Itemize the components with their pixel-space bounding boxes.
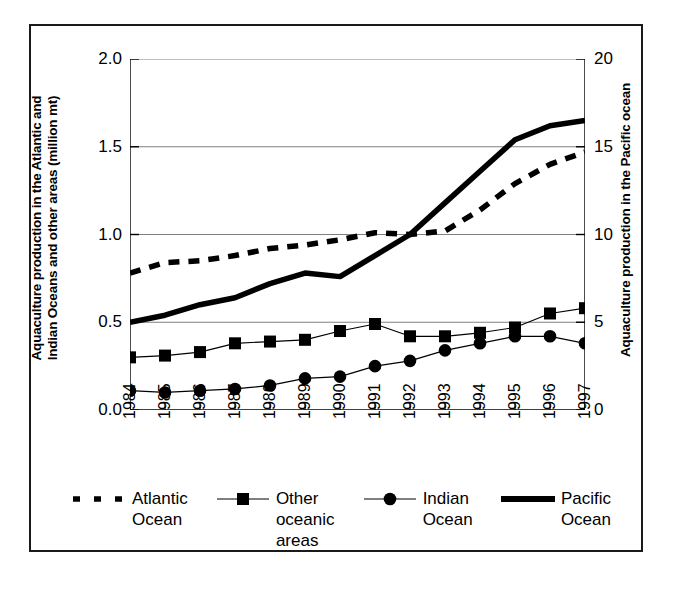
x-axis-tick-label: 1987 [226,383,244,419]
x-axis-tick-label: 1994 [471,383,489,419]
y-axis-right-ticks [576,59,585,410]
legend-entry: Atlantic Ocean [71,488,188,530]
plot-area: 0.00.51.01.52.0 05101520 198419851986198… [130,59,585,410]
x-axis-tick-label: 1989 [296,383,314,419]
x-axis-tick-label: 1995 [506,383,524,419]
solid-line-icon [500,489,556,509]
legend-label: Other oceanic areas [276,488,335,551]
x-axis-tick-label: 1988 [261,383,279,419]
y-axis-left-tick-label: 0.5 [98,312,122,332]
y-axis-right-tick-label: 10 [594,225,613,245]
legend-label: Indian Ocean [423,488,473,530]
x-axis-tick-label: 1992 [401,383,419,419]
square-marker-line-icon [215,489,271,509]
x-axis-tick-label: 1993 [436,383,454,419]
x-axis-tick-label: 1996 [541,383,559,419]
data-series-layer [130,120,585,398]
x-axis-tick-label: 1991 [366,383,384,419]
series-atlantic-ocean [130,152,585,273]
x-axis-tick-label: 1990 [331,383,349,419]
chart-legend: Atlantic OceanOther oceanic areasIndian … [71,488,611,551]
y-axis-right-tick-label: 20 [594,49,613,69]
y-axis-right-title: Aquaculture production in the Pacific oc… [618,30,634,410]
y-axis-left-tick-label: 1.0 [98,225,122,245]
figure-frame: Aquaculture production in the Atlantic a… [29,24,643,552]
series-pacific-ocean [130,120,585,322]
y-axis-right-tick-label: 15 [594,137,613,157]
legend-entry: Indian Ocean [362,488,473,530]
y-axis-left-title-line1: Aquaculture production in the Atlantic a… [29,96,44,361]
chart-canvas [130,59,585,410]
x-axis-tick-label: 1984 [121,383,139,419]
dashed-line-icon [71,489,127,509]
gridlines [130,59,585,322]
x-axis-tick-label: 1997 [576,383,594,419]
legend-entry: Pacific Ocean [500,488,611,530]
circle-marker-line-icon [362,489,418,509]
y-axis-left-title-line2: Indian Oceans and other areas (million m… [45,38,61,418]
y-axis-left-tick-label: 1.5 [98,137,122,157]
x-axis-tick-label: 1985 [156,383,174,419]
x-axis-tick-label: 1986 [191,383,209,419]
y-axis-left-title: Aquaculture production in the Atlantic a… [29,38,61,418]
legend-entry: Other oceanic areas [215,488,335,551]
y-axis-left-tick-label: 2.0 [98,49,122,69]
y-axis-left-tick-label: 0.0 [98,400,122,420]
y-axis-right-tick-label: 5 [594,312,603,332]
y-axis-right-tick-label: 0 [594,400,603,420]
legend-label: Pacific Ocean [561,488,611,530]
legend-label: Atlantic Ocean [132,488,188,530]
